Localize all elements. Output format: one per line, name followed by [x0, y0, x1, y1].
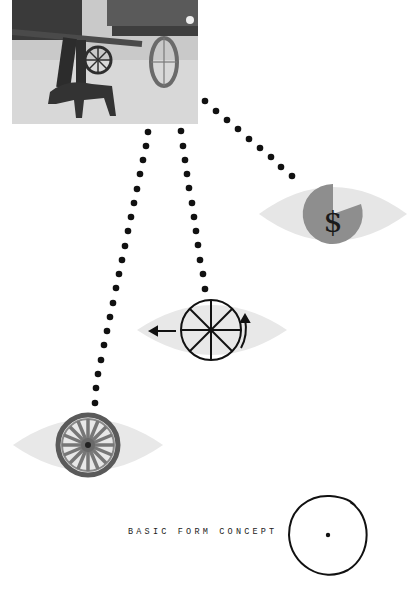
- basic-form-concept-label: BASIC FORM CONCEPT: [128, 527, 277, 537]
- dollar-sign: $: [323, 204, 342, 239]
- dotted-trail-motion: [178, 128, 209, 293]
- money-eye: $: [259, 184, 407, 244]
- dotted-trail-money: [202, 98, 296, 180]
- wagon-wheel-eye: [13, 415, 163, 475]
- basic-form-circle: [289, 496, 367, 575]
- diagram-canvas: $: [0, 0, 410, 591]
- motion-eye: [137, 300, 287, 360]
- wagon-wheel-icon: [58, 415, 118, 475]
- dotted-trail-wheel: [92, 129, 152, 407]
